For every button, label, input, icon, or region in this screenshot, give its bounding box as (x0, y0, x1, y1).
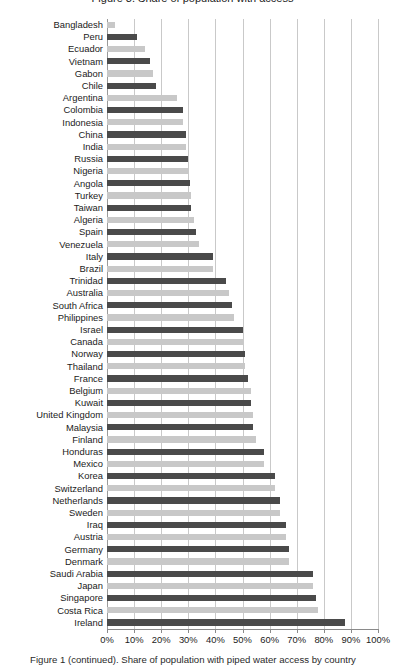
bar-malaysia (107, 424, 253, 430)
y-axis-label-germany: Germany (0, 544, 103, 556)
bar-row (107, 202, 378, 214)
y-axis-label-finland: Finland (0, 434, 103, 446)
bar-row (107, 544, 378, 556)
y-axis-label-canada: Canada (0, 336, 103, 348)
y-axis-label-ecuador: Ecuador (0, 43, 103, 55)
y-axis-label-kuwait: Kuwait (0, 397, 103, 409)
bar-taiwan (107, 205, 191, 211)
bar-row (107, 507, 378, 519)
bar-row (107, 263, 378, 275)
y-axis-label-algeria: Algeria (0, 214, 103, 226)
bar-row (107, 483, 378, 495)
bar-row (107, 190, 378, 202)
bar-row (107, 568, 378, 580)
y-axis-label-norway: Norway (0, 348, 103, 360)
bar-australia (107, 290, 229, 296)
bar-philippines (107, 314, 234, 320)
y-axis-label-iraq: Iraq (0, 519, 103, 531)
bar-peru (107, 34, 137, 40)
bar-row (107, 129, 378, 141)
bar-italy (107, 253, 213, 259)
bar-mexico (107, 461, 264, 467)
bar-thailand (107, 363, 245, 369)
y-axis-label-spain: Spain (0, 226, 103, 238)
y-axis-label-nigeria: Nigeria (0, 165, 103, 177)
bar-switzerland (107, 485, 275, 491)
x-tick-70 (297, 629, 298, 633)
bar-sweden (107, 510, 280, 516)
bar-row (107, 373, 378, 385)
y-axis-label-argentina: Argentina (0, 92, 103, 104)
bar-nigeria (107, 168, 188, 174)
bar-row (107, 446, 378, 458)
bar-brazil (107, 266, 213, 272)
bar-south-africa (107, 302, 232, 308)
y-axis-label-switzerland: Switzerland (0, 483, 103, 495)
bar-ireland (107, 619, 345, 625)
bar-row (107, 348, 378, 360)
bar-spain (107, 229, 196, 235)
y-axis-label-trinidad: Trinidad (0, 275, 103, 287)
bar-japan (107, 583, 313, 589)
bar-netherlands (107, 497, 280, 503)
bar-argentina (107, 95, 177, 101)
y-axis-label-sweden: Sweden (0, 507, 103, 519)
bar-row (107, 31, 378, 43)
bar-vietnam (107, 58, 150, 64)
bar-israel (107, 327, 243, 333)
y-axis-label-japan: Japan (0, 580, 103, 592)
bar-row (107, 617, 378, 629)
y-axis-label-bangladesh: Bangladesh (0, 19, 103, 31)
bar-denmark (107, 558, 289, 564)
bar-row (107, 239, 378, 251)
y-axis-label-honduras: Honduras (0, 446, 103, 458)
bar-belgium (107, 388, 251, 394)
x-tick-80 (324, 629, 325, 633)
bar-turkey (107, 192, 191, 198)
y-axis-label-angola: Angola (0, 178, 103, 190)
bar-kuwait (107, 400, 251, 406)
x-tick-60 (270, 629, 271, 633)
y-axis-label-russia: Russia (0, 153, 103, 165)
y-axis-label-brazil: Brazil (0, 263, 103, 275)
bar-china (107, 131, 186, 137)
bar-row (107, 165, 378, 177)
bar-row (107, 556, 378, 568)
bar-row (107, 519, 378, 531)
bar-algeria (107, 217, 194, 223)
bar-venezuela (107, 241, 199, 247)
clipped-figure-caption: Figure 1 (continued). Share of populatio… (0, 655, 385, 665)
bar-angola (107, 180, 190, 186)
bar-korea (107, 473, 275, 479)
y-axis-label-costa-rica: Costa Rica (0, 605, 103, 617)
bar-row (107, 300, 378, 312)
y-axis-label-chile: Chile (0, 80, 103, 92)
x-tick-100 (378, 629, 379, 633)
bar-russia (107, 156, 188, 162)
bar-united-kingdom (107, 412, 253, 418)
bar-india (107, 144, 186, 150)
bar-finland (107, 436, 256, 442)
gridline-100 (378, 19, 379, 629)
bar-row (107, 117, 378, 129)
bar-row (107, 275, 378, 287)
bar-row (107, 458, 378, 470)
x-tick-0 (107, 629, 108, 633)
y-axis-label-mexico: Mexico (0, 458, 103, 470)
x-tick-label-100: 100% (362, 634, 394, 645)
y-axis-label-taiwan: Taiwan (0, 202, 103, 214)
bar-row (107, 361, 378, 373)
bar-saudi-arabia (107, 571, 313, 577)
y-axis-label-australia: Australia (0, 287, 103, 299)
bar-costa-rica (107, 607, 318, 613)
y-axis-label-saudi-arabia: Saudi Arabia (0, 568, 103, 580)
y-axis-label-china: China (0, 129, 103, 141)
y-axis-label-france: France (0, 373, 103, 385)
bar-row (107, 92, 378, 104)
x-tick-10 (134, 629, 135, 633)
bar-norway (107, 351, 245, 357)
bar-singapore (107, 595, 316, 601)
x-tick-50 (243, 629, 244, 633)
bar-row (107, 214, 378, 226)
y-axis-label-venezuela: Venezuela (0, 239, 103, 251)
